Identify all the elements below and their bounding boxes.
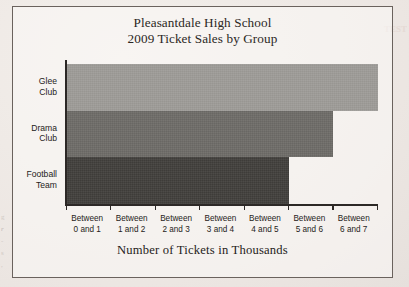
y-axis-label-glee-club: Glee Club bbox=[9, 76, 57, 97]
margin-bleed-text-3: - bbox=[1, 236, 4, 247]
x-axis-line bbox=[65, 204, 377, 206]
x-axis-tick bbox=[332, 204, 333, 210]
margin-bleed-text-1: g bbox=[1, 212, 5, 223]
x-axis-tick bbox=[110, 204, 111, 210]
chart-title-line-2: 2009 Ticket Sales by Group bbox=[13, 31, 392, 47]
y-label-line: Drama bbox=[9, 123, 57, 134]
y-label-line: Club bbox=[9, 87, 57, 98]
bar-glee-club bbox=[67, 64, 378, 111]
chart-title-line-1: Pleasantdale High School bbox=[134, 15, 272, 30]
y-label-line: Team bbox=[9, 180, 57, 191]
y-axis-label-football-team: Football Team bbox=[9, 169, 57, 190]
chart-title: Pleasantdale High School 2009 Ticket Sal… bbox=[13, 15, 392, 47]
x-axis-title: Number of Tickets in Thousands bbox=[13, 243, 392, 258]
x-axis-tick-label: Between6 and 7 bbox=[328, 213, 380, 235]
x-axis-tick bbox=[66, 204, 67, 210]
x-axis-tick bbox=[244, 204, 245, 210]
bar-football-team bbox=[67, 157, 289, 204]
chart-frame: Pleasantdale High School 2009 Ticket Sal… bbox=[12, 6, 393, 278]
y-axis-label-drama-club: Drama Club bbox=[9, 123, 57, 144]
margin-bleed-text-2: r bbox=[1, 224, 4, 235]
y-label-line: Football bbox=[9, 169, 57, 180]
x-axis-tick bbox=[155, 204, 156, 210]
x-axis-tick bbox=[199, 204, 200, 210]
x-tick-label-line: Between bbox=[328, 213, 380, 224]
x-axis-tick bbox=[377, 204, 378, 210]
margin-bleed-text-5: , bbox=[1, 260, 3, 271]
x-axis-tick bbox=[288, 204, 289, 210]
margin-bleed-text-4: s bbox=[1, 248, 4, 259]
bar-drama-club bbox=[67, 111, 334, 158]
plot-area: Glee Club Drama Club Football Team Betwe… bbox=[65, 64, 376, 204]
x-tick-label-line: 6 and 7 bbox=[328, 224, 380, 235]
y-label-line: Club bbox=[9, 133, 57, 144]
y-label-line: Glee bbox=[9, 76, 57, 87]
